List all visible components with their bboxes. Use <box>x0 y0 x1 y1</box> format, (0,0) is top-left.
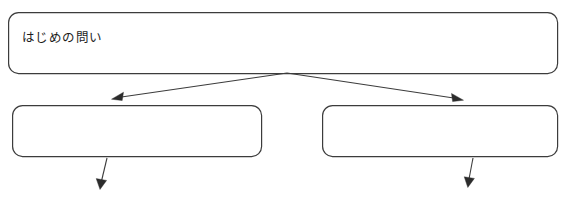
root-question-label: はじめの問い <box>22 29 102 47</box>
arrow-branch-right-downward <box>464 158 474 188</box>
arrow-root-to-branch-right <box>287 73 464 102</box>
branch-right-box[interactable] <box>323 106 558 157</box>
arrow-branch-left-downward <box>96 158 107 190</box>
arrow-root-to-branch-left <box>112 73 288 101</box>
diagram-canvas: はじめの問い <box>0 0 568 200</box>
branch-left-box[interactable] <box>13 106 262 157</box>
